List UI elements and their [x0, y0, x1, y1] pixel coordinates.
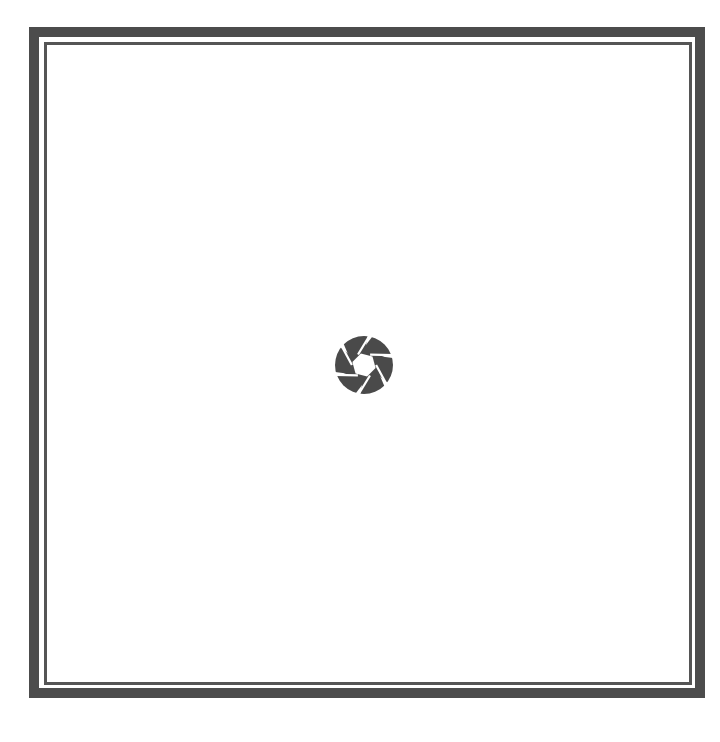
camera-aperture-icon: [334, 335, 394, 395]
loading-screen: [0, 0, 720, 742]
loading-spinner: [334, 335, 394, 395]
